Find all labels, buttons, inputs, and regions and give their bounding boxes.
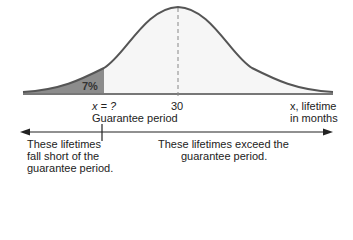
arrow-left-head xyxy=(20,129,30,136)
left-region-text-2: fall short of the xyxy=(27,150,99,162)
right-region-text-1: These lifetimes exceed the xyxy=(158,138,289,150)
right-region-text-2: guarantee period. xyxy=(181,150,267,162)
shaded-percent-label: 7% xyxy=(82,80,98,92)
guarantee-period-label: Guarantee period xyxy=(92,112,178,124)
arrow-right-head xyxy=(323,129,333,136)
mean-label: 30 xyxy=(171,100,183,112)
left-region-text-3: guarantee period. xyxy=(27,162,113,174)
axis-label-line1: x, lifetime xyxy=(290,100,336,112)
axis-label-line2: in months xyxy=(290,112,338,124)
left-region-text-1: These lifetimes xyxy=(27,138,101,150)
guarantee-x-label: x = ? xyxy=(92,100,116,112)
